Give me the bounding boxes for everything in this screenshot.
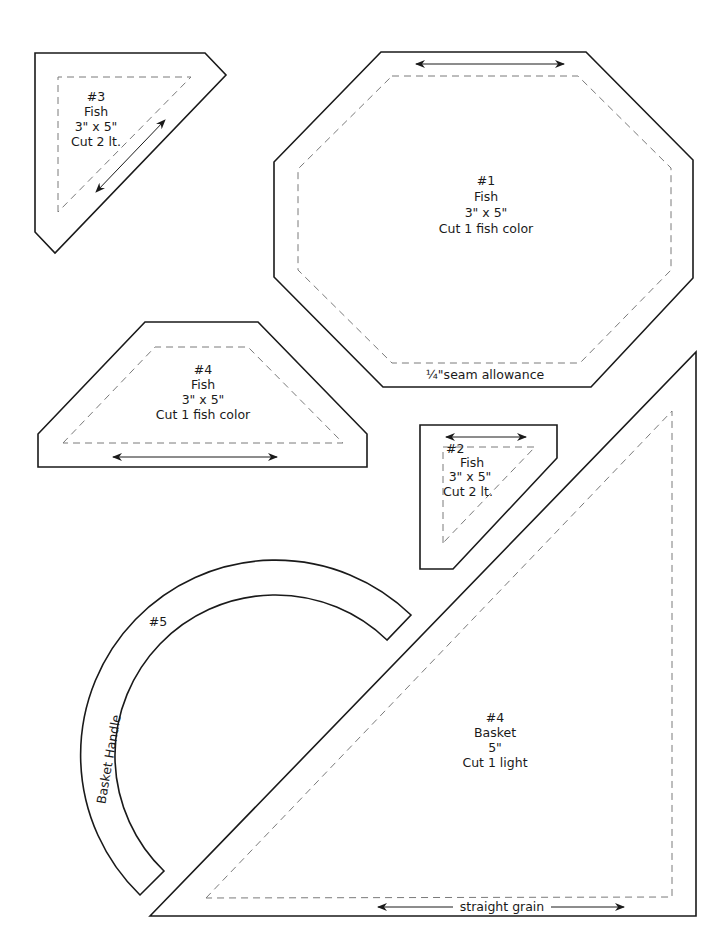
straight-grain-label: straight grain [460,899,545,914]
piece-4-fish-number: #4 [194,362,212,377]
piece-4-basket-number: #4 [486,710,504,725]
piece-4-fish-name: Fish [191,377,215,392]
piece-3-number: #3 [87,89,105,104]
piece-3-outline [35,53,226,253]
piece-2-cut: Cut 2 lt. [443,484,493,499]
seam-allowance-note: ¼"seam allowance [426,367,545,382]
piece-4-fish: #4 Fish 3" x 5" Cut 1 fish color [38,322,367,467]
piece-3-fish: #3 Fish 3" x 5" Cut 2 lt. [35,53,226,253]
piece-3-size: 3" x 5" [75,119,118,134]
piece-1-cut: Cut 1 fish color [439,221,534,236]
piece-4-fish-cut: Cut 1 fish color [156,407,251,422]
piece-4-basket-cut: Cut 1 light [462,755,527,770]
piece-3-cut: Cut 2 lt. [71,134,121,149]
pattern-sheet: #3 Fish 3" x 5" Cut 2 lt. #1 Fish 3" x 5… [0,0,725,948]
piece-1-number: #1 [477,173,495,188]
piece-4-basket-size: 5" [488,740,502,755]
piece-2-size: 3" x 5" [449,469,492,484]
piece-5-number: #5 [149,614,167,629]
piece-3-name: Fish [84,104,108,119]
piece-1-fish: #1 Fish 3" x 5" Cut 1 fish color ¼"seam … [274,52,693,387]
piece-1-size: 3" x 5" [465,205,508,220]
piece-4-fish-size: 3" x 5" [182,392,225,407]
piece-2-number: #2 [446,441,464,456]
piece-4-basket-name: Basket [474,725,516,740]
piece-1-name: Fish [474,189,498,204]
piece-2-name: Fish [460,455,484,470]
